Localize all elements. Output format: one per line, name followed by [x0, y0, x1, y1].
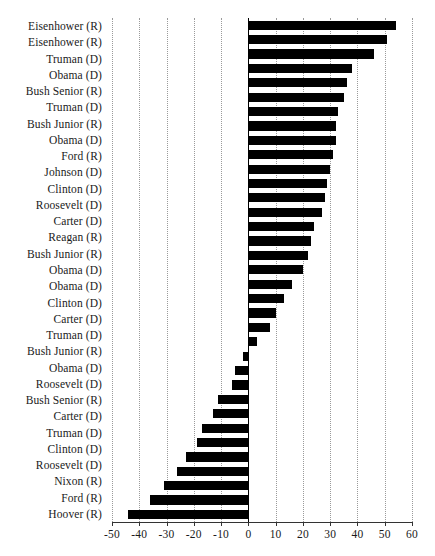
bar-row: [112, 507, 412, 521]
bar: [232, 380, 248, 389]
bar-series: [112, 18, 412, 522]
x-tick-mark: [303, 522, 304, 526]
y-axis-label: Truman (D): [46, 329, 102, 341]
bar: [150, 495, 248, 504]
bar-row: [112, 133, 412, 147]
y-axis-label: Carter (D): [53, 215, 102, 227]
x-tick-mark: [167, 522, 168, 526]
y-axis-label: Bush Senior (R): [26, 394, 102, 406]
y-axis-label: Bush Junior (R): [27, 118, 102, 130]
y-axis-label: Nixon (R): [54, 475, 102, 487]
bar-row: [112, 76, 412, 90]
bar-row: [112, 392, 412, 406]
bar-row: [112, 378, 412, 392]
bar-row: [112, 277, 412, 291]
y-axis-label: Roosevelt (D): [36, 378, 102, 390]
plot-area: [112, 18, 412, 522]
x-axis-line: [112, 522, 412, 523]
y-axis-label: Truman (D): [46, 101, 102, 113]
bar: [243, 352, 248, 361]
bar: [186, 452, 249, 461]
y-axis-label: Ford (R): [61, 492, 102, 504]
bar-row: [112, 90, 412, 104]
x-tick-mark: [385, 522, 386, 526]
bar: [248, 121, 335, 130]
bar-row: [112, 104, 412, 118]
y-axis-label: Eisenhower (R): [28, 20, 102, 32]
y-axis-label: Hoover (R): [48, 508, 102, 520]
bar-row: [112, 435, 412, 449]
gridline-60: [412, 18, 413, 522]
bar-row: [112, 176, 412, 190]
y-axis-label: Obama (D): [49, 264, 102, 276]
bar: [128, 510, 248, 519]
y-axis-label: Obama (D): [49, 362, 102, 374]
bar-row: [112, 32, 412, 46]
x-tick-mark: [412, 522, 413, 526]
bar-row: [112, 205, 412, 219]
y-axis-label: Bush Junior (R): [27, 345, 102, 357]
bar-row: [112, 335, 412, 349]
bar: [248, 265, 303, 274]
bar-row: [112, 291, 412, 305]
x-tick-mark: [139, 522, 140, 526]
bar: [248, 337, 256, 346]
x-tick-mark: [330, 522, 331, 526]
y-axis-label: Obama (D): [49, 280, 102, 292]
bar: [164, 481, 249, 490]
bar-row: [112, 320, 412, 334]
bar: [248, 150, 333, 159]
y-axis-label: Clinton (D): [48, 443, 102, 455]
bar-row: [112, 421, 412, 435]
x-tick-mark: [248, 522, 249, 526]
bar: [248, 308, 275, 317]
y-axis-label: Obama (D): [49, 69, 102, 81]
bar-row: [112, 61, 412, 75]
y-axis-label: Eisenhower (R): [28, 36, 102, 48]
bar: [248, 208, 322, 217]
y-axis-label: Roosevelt (D): [36, 199, 102, 211]
bar: [248, 64, 352, 73]
bar: [177, 467, 248, 476]
y-axis-label: Roosevelt (D): [36, 459, 102, 471]
bar-row: [112, 234, 412, 248]
bar-row: [112, 18, 412, 32]
chart-title: [0, 1, 435, 9]
bar-row: [112, 248, 412, 262]
y-axis-label: Johnson (D): [44, 166, 102, 178]
bar: [235, 366, 249, 375]
bar: [248, 49, 373, 58]
bar: [197, 438, 249, 447]
bar: [213, 409, 248, 418]
bar: [248, 193, 324, 202]
bar: [248, 280, 292, 289]
bar: [248, 35, 387, 44]
x-tick-mark: [357, 522, 358, 526]
y-axis-label: Clinton (D): [48, 297, 102, 309]
bar: [248, 165, 330, 174]
y-axis-label: Truman (D): [46, 427, 102, 439]
president-approval-bar-chart: Eisenhower (R)Eisenhower (R)Truman (D)Ob…: [0, 0, 435, 556]
x-tick-mark: [276, 522, 277, 526]
bar-row: [112, 493, 412, 507]
bar: [248, 236, 311, 245]
bar: [248, 107, 338, 116]
bar: [248, 136, 335, 145]
y-axis-label: Obama (D): [49, 134, 102, 146]
bar-row: [112, 219, 412, 233]
bar-row: [112, 148, 412, 162]
x-tick-mark: [194, 522, 195, 526]
bar: [248, 179, 327, 188]
bar: [202, 424, 248, 433]
bar: [248, 222, 313, 231]
y-axis-label: Clinton (D): [48, 183, 102, 195]
x-tick-label: 60: [392, 528, 432, 541]
y-axis-category-labels: Eisenhower (R)Eisenhower (R)Truman (D)Ob…: [0, 18, 108, 522]
bar-row: [112, 47, 412, 61]
x-tick-mark: [112, 522, 113, 526]
x-tick-mark: [221, 522, 222, 526]
bar: [218, 395, 248, 404]
bar: [248, 21, 395, 30]
y-axis-label: Truman (D): [46, 53, 102, 65]
bar-row: [112, 363, 412, 377]
